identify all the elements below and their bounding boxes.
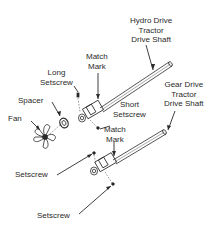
- upper-coupler: [79, 100, 104, 122]
- label-line: Hydro Drive: [130, 16, 172, 26]
- label-line: Match: [104, 125, 126, 135]
- label-line: Setscrew: [40, 78, 73, 88]
- label-hydro-drive-shaft: Hydro Drive Tractor Drive Shaft: [130, 16, 172, 45]
- label-long-setscrew: Long Setscrew: [40, 68, 73, 87]
- label-line: Drive Shaft: [130, 35, 172, 45]
- label-line: Mark: [104, 135, 126, 145]
- label-line: Gear Drive: [164, 80, 204, 90]
- assembly-drawing: [0, 0, 219, 226]
- label-gear-drive-shaft: Gear Drive Tractor Drive Shaft: [164, 80, 204, 109]
- label-line: Match: [86, 52, 108, 62]
- label-line: Tractor: [164, 90, 204, 100]
- label-fan: Fan: [8, 114, 22, 124]
- label-line: Mark: [86, 62, 108, 72]
- label-line: Tractor: [130, 26, 172, 36]
- label-setscrew-left: Setscrew: [15, 170, 48, 180]
- label-line: Short: [113, 100, 146, 110]
- label-line: Drive Shaft: [164, 99, 204, 109]
- label-short-setscrew: Short Setscrew: [113, 100, 146, 119]
- label-line: Long: [40, 68, 73, 78]
- label-line: Setscrew: [113, 110, 146, 120]
- label-match-mark-top: Match Mark: [86, 52, 108, 71]
- label-spacer: Spacer: [18, 96, 43, 106]
- label-setscrew-bottom: Setscrew: [37, 211, 70, 221]
- spacer: [58, 117, 69, 129]
- label-match-mark-bottom: Match Mark: [104, 125, 126, 144]
